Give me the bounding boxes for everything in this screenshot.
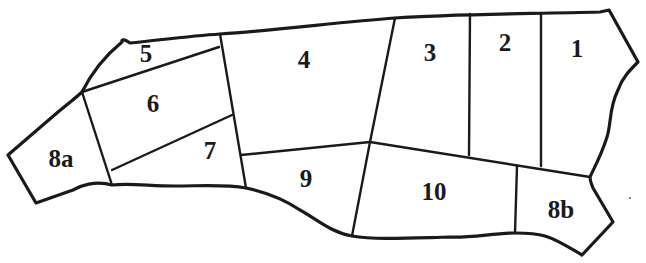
divider-4-left — [220, 34, 246, 188]
hide-outline — [8, 10, 638, 255]
speck-mark — [629, 197, 631, 199]
region-label-2: 2 — [499, 29, 512, 56]
region-label-8b: 8b — [548, 196, 574, 223]
divider-3-2 — [469, 14, 470, 155]
region-label-9: 9 — [300, 165, 313, 192]
region-label-1: 1 — [571, 35, 584, 62]
region-label-10: 10 — [422, 178, 447, 205]
region-label-4: 4 — [298, 46, 311, 73]
region-label-8a: 8a — [49, 145, 75, 172]
region-label-7: 7 — [204, 137, 217, 164]
divider-upper-lower-right — [370, 142, 590, 177]
hide-region-diagram: 1 2 3 4 5 6 7 8a 8b 9 10 — [0, 0, 646, 263]
region-label-6: 6 — [147, 90, 160, 117]
region-label-3: 3 — [424, 39, 437, 66]
region-label-5: 5 — [140, 40, 153, 67]
divider-4-9 — [241, 142, 370, 155]
divider-10-8b — [515, 166, 517, 233]
divider-8a-6 — [82, 92, 112, 185]
divider-4-3-and-9-10 — [352, 18, 395, 236]
